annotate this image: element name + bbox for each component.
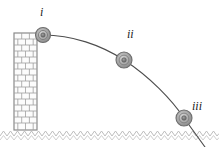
physics-diagram-projectile: i ii iii — [0, 0, 219, 147]
diagram-canvas — [0, 0, 219, 147]
label-position-iii: iii — [192, 100, 202, 112]
ball-position-i — [36, 28, 51, 43]
ball-position-ii — [116, 52, 132, 68]
ball-position-iii — [176, 110, 192, 126]
ground-zigzag-line-secondary — [0, 136, 219, 141]
label-position-i: i — [40, 6, 43, 18]
ground-group — [0, 131, 219, 140]
brick-wall — [14, 33, 37, 130]
label-position-ii: ii — [127, 28, 134, 40]
ground-zigzag-line — [0, 131, 219, 136]
